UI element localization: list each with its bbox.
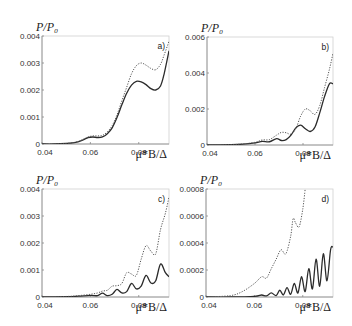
figure: 00.0010.0020.0030.0040.040.060.08P/P₀μ*B… (0, 0, 352, 326)
panel-d: 00.00020.00040.00060.00080.040.060.08P/P… (180, 173, 333, 314)
y-tick-label: 0.0004 (180, 239, 205, 248)
y-tick-label: 0.002 (20, 86, 41, 95)
y-tick-label: 0.003 (20, 59, 41, 68)
series-dotted-line (42, 41, 169, 144)
y-tick-label: 0.004 (185, 69, 206, 78)
x-tick-label: 0.06 (83, 148, 99, 157)
series-solid-line (42, 51, 169, 144)
x-tick-label: 0.06 (83, 301, 99, 310)
y-tick-label: 0.003 (20, 212, 41, 221)
x-axis-label: μ*B/Δ (136, 300, 168, 314)
x-axis-label: μ*B/Δ (136, 147, 168, 161)
panel-label: a) (157, 41, 165, 51)
x-tick-label: 0.06 (247, 301, 263, 310)
y-tick-label: 0.0002 (180, 266, 205, 275)
y-axis-label: P/P₀ (35, 173, 58, 187)
y-axis-label: P/P₀ (35, 20, 58, 34)
y-tick-label: 0.002 (20, 239, 41, 248)
series-solid-line (42, 264, 169, 297)
y-axis-label: P/P₀ (199, 173, 222, 187)
x-tick-label: 0.06 (247, 149, 263, 158)
y-tick-label: 0.0006 (180, 212, 205, 221)
series-solid-line (207, 83, 333, 145)
x-tick-label: 0.04 (202, 149, 218, 158)
plot-frame (42, 36, 169, 144)
x-tick-label: 0.04 (201, 301, 217, 310)
x-tick-label: 0.04 (37, 301, 53, 310)
y-tick-label: 0.001 (20, 266, 41, 275)
panel-label: b) (321, 42, 329, 52)
y-tick-label: 0.002 (185, 105, 206, 114)
x-axis-label: μ*B/Δ (300, 148, 332, 162)
panel-label: d) (321, 194, 329, 204)
y-tick-label: 0.001 (20, 113, 41, 122)
series-dotted-line (206, 189, 305, 297)
panel-label: c) (158, 194, 165, 204)
panel-a: 00.0010.0020.0030.0040.040.060.08P/P₀μ*B… (20, 20, 169, 161)
y-axis-label: P/P₀ (200, 21, 223, 35)
panel-c: 00.0010.0020.0030.0040.040.060.08P/P₀μ*B… (20, 173, 169, 314)
x-axis-label: μ*B/Δ (300, 300, 332, 314)
panel-b: 00.0020.0040.0060.040.060.08P/P₀μ*B/Δb) (185, 21, 333, 162)
x-tick-label: 0.04 (37, 148, 53, 157)
series-dotted-line (207, 53, 333, 145)
